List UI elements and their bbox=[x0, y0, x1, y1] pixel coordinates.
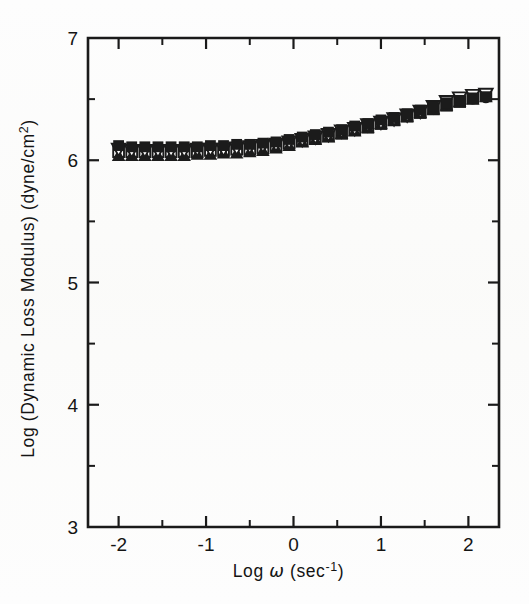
data-point-filled-square bbox=[113, 140, 124, 151]
data-point-filled-square bbox=[297, 132, 308, 143]
x-axis-title: Log ω (sec-1) bbox=[233, 560, 344, 581]
data-point-filled-square bbox=[310, 129, 321, 140]
data-point-filled-square bbox=[349, 121, 360, 132]
x-tick-label-2: 2 bbox=[463, 534, 474, 555]
data-point-filled-square bbox=[480, 91, 491, 102]
data-point-filled-square bbox=[284, 134, 295, 145]
tick-labels-layer: -2-101234567 bbox=[67, 28, 473, 555]
data-point-filled-square bbox=[428, 101, 439, 112]
data-point-filled-square bbox=[336, 124, 347, 135]
data-point-filled-square bbox=[389, 112, 400, 123]
data-point-filled-square bbox=[362, 118, 373, 129]
y-tick-label-3: 3 bbox=[67, 517, 78, 538]
data-points-layer bbox=[112, 89, 493, 161]
data-point-filled-square bbox=[139, 141, 150, 152]
x-tick-label--2: -2 bbox=[110, 534, 127, 555]
data-point-filled-square bbox=[415, 105, 426, 116]
data-point-filled-square bbox=[323, 127, 334, 138]
y-tick-label-7: 7 bbox=[67, 28, 78, 49]
data-point-filled-square bbox=[454, 95, 465, 106]
data-point-filled-square bbox=[441, 97, 452, 108]
data-point-filled-square bbox=[467, 93, 478, 104]
scatter-plot: -2-101234567 Log ω (sec-1)Log (Dynamic L… bbox=[0, 0, 529, 604]
y-tick-label-4: 4 bbox=[67, 395, 78, 416]
data-point-filled-square bbox=[205, 140, 216, 151]
x-tick-label-1: 1 bbox=[376, 534, 387, 555]
data-point-filled-square bbox=[257, 138, 268, 149]
data-point-filled-square bbox=[231, 139, 242, 150]
data-point-filled-square bbox=[402, 108, 413, 119]
axis-titles-layer: Log ω (sec-1)Log (Dynamic Loss Modulus) … bbox=[17, 119, 344, 581]
x-tick-label-0: 0 bbox=[288, 534, 299, 555]
x-tick-label--1: -1 bbox=[198, 534, 215, 555]
y-tick-label-6: 6 bbox=[67, 150, 78, 171]
data-point-filled-square bbox=[179, 141, 190, 152]
data-point-filled-square bbox=[166, 141, 177, 152]
data-point-filled-square bbox=[192, 141, 203, 152]
data-point-filled-square bbox=[271, 137, 282, 148]
figure-canvas: -2-101234567 Log ω (sec-1)Log (Dynamic L… bbox=[0, 0, 529, 604]
y-axis-title: Log (Dynamic Loss Modulus) (dyne/cm2) bbox=[17, 119, 38, 457]
data-point-filled-square bbox=[244, 139, 255, 150]
data-point-filled-square bbox=[153, 141, 164, 152]
data-point-filled-square bbox=[218, 140, 229, 151]
data-point-filled-square bbox=[376, 115, 387, 126]
data-point-filled-square bbox=[126, 141, 137, 152]
y-tick-label-5: 5 bbox=[67, 273, 78, 294]
